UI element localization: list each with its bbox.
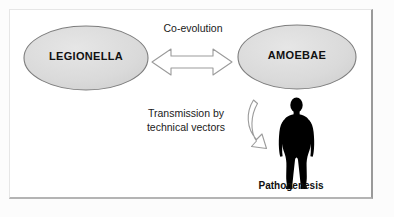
- transmission-label-line-1: Transmission by: [126, 106, 246, 120]
- transmission-label-line-2: technical vectors: [126, 120, 246, 134]
- node-label-amoebae: AMOEBAE: [238, 49, 356, 61]
- connector-label-transmission: Transmission by technical vectors: [126, 106, 246, 134]
- connector-label-coevolution: Co-evolution: [141, 22, 245, 34]
- curved-arrow-icon: [248, 100, 266, 149]
- double-headed-arrow-icon: [152, 49, 232, 75]
- human-silhouette-icon: [279, 97, 314, 189]
- node-label-legionella: LEGIONELLA: [24, 50, 148, 62]
- figure-root: LEGIONELLA AMOEBAE Co-evolution Transmis…: [0, 0, 394, 217]
- caption-pathogenesis: Pathogenesis: [243, 180, 339, 191]
